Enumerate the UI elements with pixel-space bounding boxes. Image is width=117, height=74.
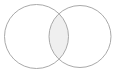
venn-diagram-canvas (0, 0, 117, 74)
venn-diagram-figure (0, 0, 117, 74)
